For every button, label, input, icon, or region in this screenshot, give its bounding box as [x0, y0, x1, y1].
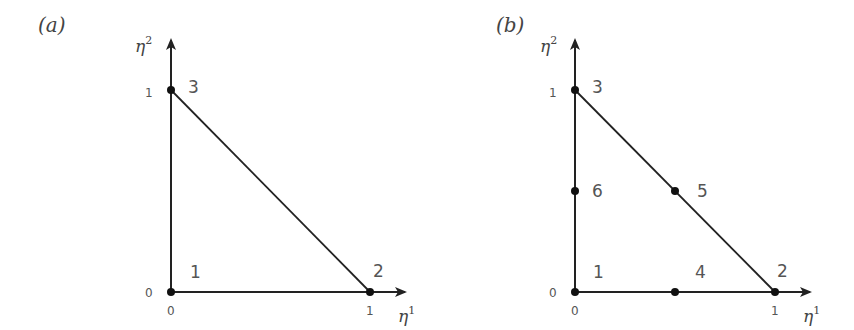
y-axis-label: η2: [540, 34, 557, 56]
node-1-label: 1: [190, 262, 201, 282]
node-2-label: 2: [777, 261, 788, 281]
node-5-label: 5: [697, 181, 708, 201]
y-tick-0: 0: [145, 286, 153, 300]
node-3: [571, 86, 579, 94]
node-4-label: 4: [695, 262, 706, 282]
panel-b-label: (b): [496, 13, 524, 37]
node-2: [366, 288, 374, 296]
node-3-label: 3: [188, 77, 199, 97]
x-axis-label: η1: [398, 304, 415, 326]
x-tick-0: 0: [571, 304, 579, 318]
x-tick-1: 1: [366, 304, 374, 318]
panel-a-label: (a): [38, 13, 66, 37]
node-2: [771, 288, 779, 296]
node-1: [571, 288, 579, 296]
y-tick-1: 1: [145, 86, 153, 100]
y-tick-1: 1: [549, 86, 557, 100]
node-1-label: 1: [593, 262, 604, 282]
node-1: [167, 288, 175, 296]
node-6-label: 6: [592, 181, 603, 201]
x-tick-0: 0: [167, 304, 175, 318]
node-4: [671, 288, 679, 296]
node-2-label: 2: [373, 261, 384, 281]
node-6: [571, 187, 579, 195]
panel-a: (a) η2 η1 1 0 0 1 1 2 3: [38, 13, 415, 326]
node-5: [671, 187, 679, 195]
node-3: [167, 86, 175, 94]
y-tick-0: 0: [549, 286, 557, 300]
y-axis-label: η2: [135, 34, 152, 56]
node-3-label: 3: [592, 77, 603, 97]
x-axis-label: η1: [803, 304, 820, 326]
panel-b: (b) η2 η1 1 0 0 1 1 2 3 4 5 6: [496, 13, 820, 326]
hypotenuse-edge: [171, 90, 370, 292]
x-tick-1: 1: [771, 304, 779, 318]
